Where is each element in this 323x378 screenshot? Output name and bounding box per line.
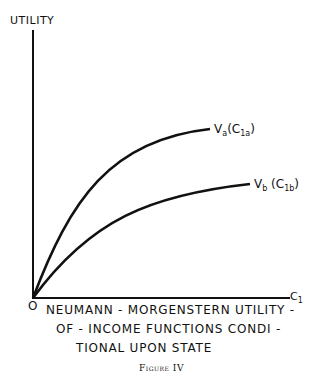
- origin-label: O: [28, 299, 37, 313]
- curve-b-label: Vb (C1b): [254, 177, 299, 193]
- curve-a-label: Va(C1a): [214, 122, 255, 138]
- caption-line-3: TIONAL UPON STATE: [76, 339, 212, 358]
- curve-a: [33, 129, 210, 298]
- figure-title: Figure IV: [0, 363, 323, 373]
- caption-line-1: NEUMANN - MORGENSTERN UTILITY -: [46, 301, 295, 320]
- curve-b: [33, 184, 250, 298]
- caption-line-2: OF - INCOME FUNCTIONS CONDI -: [56, 320, 281, 339]
- y-axis-label: UTILITY: [10, 14, 54, 27]
